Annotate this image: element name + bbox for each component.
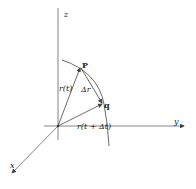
- point-p-label: P: [82, 60, 88, 70]
- y-axis-label: y: [173, 117, 179, 126]
- point-q-label: q: [104, 100, 110, 110]
- z-axis-label: z: [63, 10, 69, 19]
- vector-r-t: [58, 68, 80, 126]
- origin-point: [57, 125, 59, 127]
- r-t-dt-label: r(t + Δt): [77, 122, 111, 131]
- x-axis-label: x: [10, 161, 15, 170]
- r-t-label: r(t): [59, 84, 72, 93]
- x-axis: [12, 126, 58, 173]
- delta-r-label: Δr: [80, 85, 92, 94]
- diagram-canvas: z y x P q r(t) Δr r(t + Δt): [0, 0, 196, 189]
